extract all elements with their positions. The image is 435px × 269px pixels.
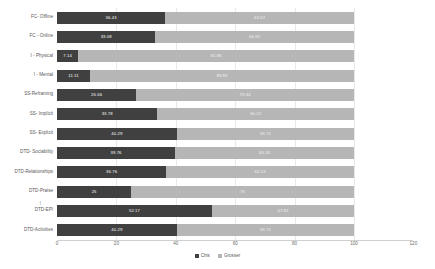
bar-segment-chis: 39.76 — [57, 147, 175, 159]
bar-value-label: 59.71 — [260, 228, 271, 232]
bar-value-label: 63.57 — [254, 16, 265, 20]
x-axis-ticks: 020406080100120 — [0, 242, 435, 254]
legend-label: Grosser — [224, 254, 240, 259]
bar-value-label: 75 — [240, 190, 245, 194]
bar-segment-chis: 25 — [57, 186, 131, 198]
bar-segment-grosser: 66.22 — [157, 108, 354, 120]
legend-label: Chis — [201, 254, 210, 259]
category-label: DTD- Sociability — [1, 150, 53, 155]
bar-value-label: 36.76 — [106, 170, 117, 174]
bar-segment-chis: 40.29 — [57, 224, 177, 236]
category-label: FC- Offline — [1, 15, 53, 20]
bar-row: 7.1492.86 — [57, 50, 354, 62]
bar-value-label: 63.24 — [255, 170, 266, 174]
bar-value-label: 33.08 — [101, 35, 112, 39]
plot-area: 36.4363.5733.0866.927.1492.8611.1188.892… — [57, 8, 354, 240]
bar-row: 40.2959.71 — [57, 224, 354, 236]
bar-segment-chis: 26.66 — [57, 89, 136, 101]
bar-segment-grosser: 59.71 — [177, 224, 354, 236]
category-label: FC - Online — [1, 34, 53, 39]
legend-swatch-icon — [195, 254, 199, 258]
category-label: DTD-Praise — [1, 189, 53, 194]
bar-segment-chis: 33.08 — [57, 31, 155, 43]
bar-value-label: 66.22 — [250, 112, 261, 116]
bar-segment-grosser: 63.57 — [165, 12, 354, 24]
bar-segment-grosser: 63.24 — [166, 166, 354, 178]
bar-segment-grosser: 59.71 — [177, 128, 354, 140]
gridline — [354, 8, 355, 240]
legend-item-chis[interactable]: Chis — [195, 254, 210, 259]
bar-value-label: 36.43 — [106, 16, 117, 20]
bar-segment-grosser: 60.24 — [175, 147, 354, 159]
bar-value-label: 92.86 — [211, 54, 222, 58]
bar-segment-chis: 11.11 — [57, 70, 90, 82]
category-label: DTD-EPI — [1, 208, 53, 213]
bar-value-label: 60.24 — [259, 151, 270, 155]
category-label: SS- Explicit — [1, 131, 53, 136]
bar-segment-grosser: 92.86 — [78, 50, 354, 62]
bar-value-label: 66.92 — [249, 35, 260, 39]
legend-item-grosser[interactable]: Grosser — [218, 254, 240, 259]
category-label: DTD-Relationships — [1, 170, 53, 175]
x-tick-label: 100 — [350, 242, 358, 247]
chart-legend: ChisGrosser — [0, 254, 435, 259]
dtd-epi-marker-icon: | — [40, 201, 41, 205]
bar-segment-chis: 33.78 — [57, 108, 157, 120]
x-tick-label: 20 — [114, 242, 119, 247]
bar-value-label: 26.66 — [91, 93, 102, 97]
bar-segment-chis: 7.14 — [57, 50, 78, 62]
bar-value-label: 40.29 — [111, 132, 122, 136]
bar-row: 11.1188.89 — [57, 70, 354, 82]
bar-row: 52.1747.83 — [57, 205, 354, 217]
stacked-bar-chart: FC- OfflineFC - OnlineI - PhysicalI - Me… — [0, 0, 435, 269]
bar-segment-chis: 40.29 — [57, 128, 177, 140]
category-label: SS-Reframing — [1, 92, 53, 97]
bar-value-label: 40.29 — [111, 228, 122, 232]
bar-value-label: 39.76 — [111, 151, 122, 155]
category-label: I - Mental — [1, 73, 53, 78]
x-tick-label: 0 — [56, 242, 59, 247]
category-axis-labels: FC- OfflineFC - OnlineI - PhysicalI - Me… — [0, 8, 53, 240]
bar-row: 40.2959.71 — [57, 128, 354, 140]
bar-row: 33.0866.92 — [57, 31, 354, 43]
x-tick-label: 120 — [410, 242, 418, 247]
bar-value-label: 33.78 — [102, 112, 113, 116]
category-label: DTD-Activities — [1, 228, 53, 233]
bar-row: 33.7866.22 — [57, 108, 354, 120]
bar-segment-chis: 52.17 — [57, 205, 212, 217]
bar-value-label: 59.71 — [260, 132, 271, 136]
bar-segment-grosser: 66.92 — [155, 31, 354, 43]
bar-value-label: 11.11 — [68, 74, 78, 78]
bar-row: 26.6673.34 — [57, 89, 354, 101]
bar-value-label: 88.89 — [216, 74, 227, 78]
bar-segment-grosser: 47.83 — [212, 205, 354, 217]
bar-row: 39.7660.24 — [57, 147, 354, 159]
bar-value-label: 7.14 — [63, 54, 72, 58]
bar-value-label: 52.17 — [129, 209, 140, 213]
bar-segment-chis: 36.43 — [57, 12, 165, 24]
bar-value-label: 73.34 — [240, 93, 251, 97]
bar-value-label: 47.83 — [277, 209, 288, 213]
legend-swatch-icon — [218, 254, 222, 258]
x-tick-label: 80 — [292, 242, 297, 247]
category-label: SS- Implicit — [1, 112, 53, 117]
bar-segment-grosser: 88.89 — [90, 70, 354, 82]
x-tick-label: 40 — [173, 242, 178, 247]
bar-row: 36.4363.57 — [57, 12, 354, 24]
bar-segment-chis: 36.76 — [57, 166, 166, 178]
bar-value-label: 25 — [92, 190, 97, 194]
bar-row: 2575 — [57, 186, 354, 198]
x-tick-label: 60 — [233, 242, 238, 247]
category-label: I - Physical — [1, 54, 53, 59]
bar-segment-grosser: 75 — [131, 186, 354, 198]
bar-segment-grosser: 73.34 — [136, 89, 354, 101]
bar-row: 36.7663.24 — [57, 166, 354, 178]
